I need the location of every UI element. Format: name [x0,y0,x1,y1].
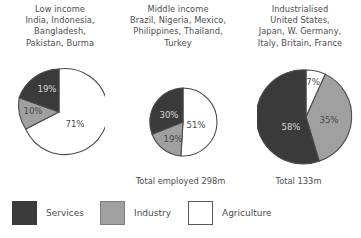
legend-swatch-agriculture [188,201,213,225]
legend-label-industry: Industry [134,208,171,218]
pie-label-industry: 10% [23,106,42,116]
pie-label-agriculture: 71% [65,119,84,129]
pie-label-services: 19% [37,84,56,94]
legend: Services Industry Agriculture [0,201,361,233]
pie-label-services: 58% [281,122,300,132]
pie-label-agriculture: 51% [186,120,205,130]
legend-swatch-services [12,201,37,225]
heading-line-1: Middle income [118,4,238,15]
panel-heading-middle-income: Middle income Brazil, Nigeria, Mexico, P… [118,4,238,49]
pie-chart-middle-income: 51% 19% 30% [147,86,219,158]
legend-label-services: Services [46,208,84,218]
pie-label-agriculture: 7% [306,77,320,87]
heading-line-1: Low income [0,4,120,15]
panel-heading-low-income: Low income India, Indonesia, Bangladesh,… [0,4,120,49]
heading-line-4: Italy, Britain, France [239,38,361,49]
pie-chart-industrialised: 7% 35% 58% [257,68,355,166]
pie-chart-low-income: 71% 10% 19% [13,66,105,158]
legend-swatch-industry [100,201,125,225]
total-label-industrialised: Total 250m [239,176,361,186]
pie-label-industry: 35% [319,115,338,125]
heading-line-3: Japan, W. Germany, [239,26,361,37]
legend-item-services: Services [12,201,84,225]
legend-item-industry: Industry [100,201,171,225]
heading-line-2: Brazil, Nigeria, Mexico, [118,15,238,26]
heading-line-3: Philippines, Thailand, [118,26,238,37]
heading-line-1: Industrialised [239,4,361,15]
pie-label-industry: 19% [163,134,182,144]
heading-line-4: Pakistan, Burma [0,38,120,49]
pie-label-services: 30% [159,110,178,120]
panel-heading-industrialised: Industrialised United States, Japan, W. … [239,4,361,49]
legend-item-agriculture: Agriculture [188,201,272,225]
legend-label-agriculture: Agriculture [222,208,272,218]
heading-line-2: India, Indonesia, [0,15,120,26]
heading-line-2: United States, [239,15,361,26]
heading-line-3: Bangladesh, [0,26,120,37]
heading-line-4: Turkey [118,38,238,49]
